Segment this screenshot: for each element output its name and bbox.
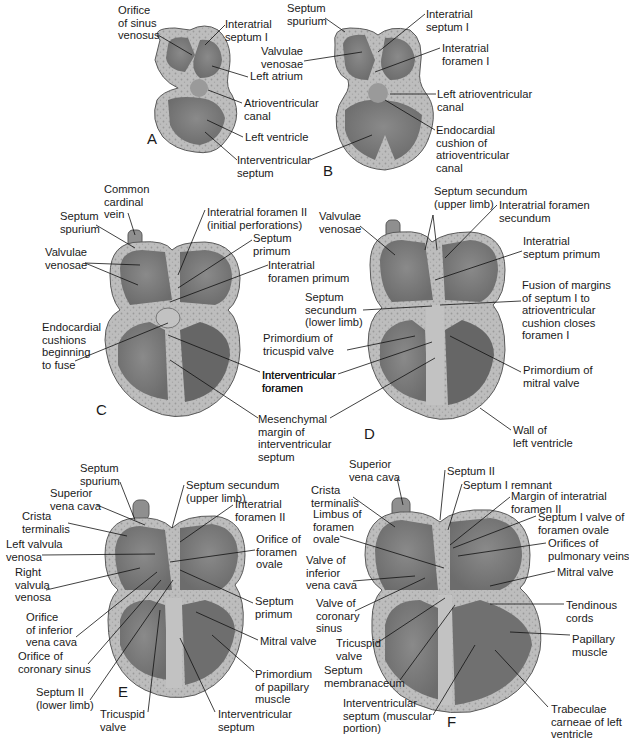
- annotation-label: Crista terminalis: [311, 484, 359, 509]
- annotation-label: Tricuspid valve: [336, 637, 381, 662]
- annotation-label: Valve of inferior vena cava: [306, 554, 357, 592]
- annotation-label: Mesenchymal margin of interventricular s…: [258, 413, 331, 463]
- annotation-label: Interatrial septum primum: [523, 235, 600, 260]
- annotation-label: Mitral valve: [260, 635, 317, 648]
- panel-letter-d: D: [364, 425, 375, 442]
- annotation-label: Interventricular septum: [237, 154, 311, 179]
- panel-letter-a: A: [147, 130, 157, 147]
- heart-panel-a: [155, 26, 237, 153]
- annotation-label: Primordium of papillary muscle: [255, 668, 312, 706]
- annotation-label: Interatrial foramen I: [442, 42, 489, 67]
- annotation-label: Atrioventricular canal: [244, 97, 319, 122]
- annotation-label: Interventricular foramen: [262, 369, 336, 394]
- heart-panel-e: [105, 500, 245, 698]
- annotation-label: Interventricular septum: [218, 708, 292, 733]
- annotation-label: Orifice of foramen ovale: [256, 533, 301, 571]
- annotation-label: Endocardial cushions beginning to fuse: [42, 321, 101, 371]
- panel-letter-b: B: [323, 162, 333, 179]
- annotation-label: Tricuspid valve: [100, 708, 145, 733]
- annotation-label: Septum I valve of foramen ovale: [538, 511, 624, 536]
- annotation-label: Orifice of inferior vena cava: [26, 611, 77, 649]
- heart-panel-b: [335, 28, 434, 170]
- annotation-label: Primordium of mitral valve: [523, 364, 593, 389]
- annotation-label: Interatrial foramen II (initial perforat…: [207, 206, 307, 231]
- annotation-label: Septum spurium: [80, 462, 120, 487]
- annotation-label: Orifice of sinus venosus: [118, 4, 160, 42]
- annotation-label: Primordium of tricuspid valve: [263, 332, 334, 357]
- annotation-label: Septum membranaceum: [324, 664, 405, 689]
- annotation-label: Superior vena cava: [50, 487, 101, 512]
- annotation-label: Valvulae venosae: [261, 45, 303, 70]
- annotation-label: Septum secundum (lower limb): [305, 291, 363, 329]
- annotation-label: Orifice of coronary sinus: [18, 650, 91, 675]
- annotation-label: Limbus of foramen ovale: [313, 508, 362, 546]
- annotation-label: Valve of coronary sinus: [316, 597, 360, 635]
- annotation-label: Wall of left ventricle: [513, 424, 573, 449]
- annotation-label: Crista terminalis: [22, 510, 70, 535]
- annotation-label: Septum primum: [255, 595, 294, 620]
- annotation-label: Interatrial septum I: [426, 8, 473, 33]
- annotation-label: Left atrioventricular canal: [437, 88, 532, 113]
- annotation-label: Interatrial foramen primum: [268, 259, 349, 284]
- annotation-label: Superior vena cava: [349, 458, 400, 483]
- annotation-label: Septum spurium: [60, 210, 100, 235]
- annotation-label: Endocardial cushion of atrioventricular …: [436, 124, 509, 174]
- annotation-label: Trabeculae carneae of left ventricle: [551, 703, 622, 741]
- annotation-label: Septum spurium: [287, 2, 327, 27]
- annotation-label: Interatrial foramen secundum: [499, 199, 590, 224]
- annotation-label: Valvulae venosae: [45, 246, 87, 271]
- panel-letter-f: F: [447, 713, 456, 730]
- annotation-label: Left valvula venosa: [6, 538, 63, 563]
- annotation-label: Right valvula venosa: [15, 566, 51, 604]
- annotation-label: Tendinous cords: [566, 599, 617, 624]
- annotation-label: Valvulae venosae: [319, 210, 361, 235]
- annotation-label: Septum primum: [253, 232, 292, 257]
- annotation-label: Papillary muscle: [572, 633, 615, 658]
- annotation-label: Left ventricle: [245, 131, 308, 144]
- panel-letter-c: C: [96, 401, 107, 418]
- annotation-label: Septum II: [447, 465, 495, 478]
- annotation-label: Interatrial foramen II: [235, 498, 285, 523]
- annotation-label: Orifices of pulmonary veins: [548, 537, 629, 562]
- annotation-label: Septum II (lower limb): [36, 686, 94, 711]
- annotation-label: Mitral valve: [557, 566, 614, 579]
- annotation-label: Interatrial septum I: [225, 18, 272, 43]
- panel-letter-e: E: [118, 683, 128, 700]
- annotation-label: Left atrium: [250, 70, 303, 83]
- annotation-label: Interventricular septum (muscular portio…: [343, 697, 432, 735]
- annotation-label: Common cardinal vein: [104, 183, 149, 221]
- annotation-label: Fusion of margins of septum I to atriove…: [522, 279, 611, 342]
- heart-panel-c: [105, 230, 240, 417]
